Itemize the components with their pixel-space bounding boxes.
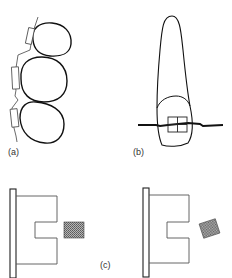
panel-b (138, 16, 223, 146)
bracket-a-2 (11, 67, 19, 89)
panel-label-c: (c) (100, 261, 111, 270)
tooth-2-outline (21, 57, 67, 102)
bracket-slot-outline-right (149, 195, 189, 263)
bracket-base-left (10, 189, 16, 278)
tooth-3-outline (20, 102, 64, 143)
rect-wire-right-rotated (199, 219, 220, 239)
panel-a (10, 17, 71, 143)
incisor-crown-line (157, 96, 190, 108)
bracket-a-3 (10, 109, 19, 128)
figure-drawing (0, 0, 232, 278)
bracket-base-right (143, 188, 149, 277)
bracket-slot-outline-left (16, 196, 57, 264)
orthodontic-figure: (a) (b) (c) (0, 0, 232, 278)
panel-c (10, 188, 220, 278)
tooth-1-outline (33, 23, 71, 56)
bracket-b (168, 117, 187, 132)
bracket-slot-left (10, 189, 84, 278)
panel-label-b: (b) (133, 148, 144, 157)
bracket-slot-right (143, 188, 220, 277)
panel-label-a: (a) (8, 148, 19, 157)
rect-wire-left (64, 222, 84, 238)
